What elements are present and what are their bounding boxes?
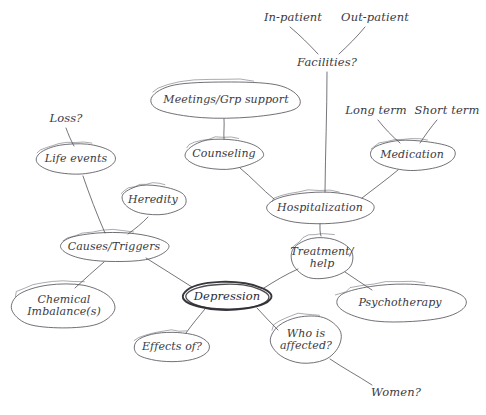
node-outline-causes-triggers <box>60 232 168 261</box>
node-outline-tail-hospitalization <box>272 190 339 202</box>
node-shape-life-events[interactable] <box>36 142 115 174</box>
node-outline-tail-chemical <box>15 281 84 297</box>
node-shape-psychotherapy[interactable] <box>335 281 466 322</box>
node-shape-layer <box>0 0 486 415</box>
node-outline-treatment-help <box>291 238 353 279</box>
node-outline-heredity <box>122 185 186 215</box>
node-outline-medication <box>370 140 455 170</box>
node-shape-medication[interactable] <box>370 139 455 171</box>
node-outline-tail-causes-triggers <box>63 229 134 241</box>
node-outline-effects-of <box>134 332 209 361</box>
node-outline-hospitalization <box>267 192 375 224</box>
node-shape-counseling[interactable] <box>185 137 264 170</box>
node-outline-tail-meetings <box>153 79 254 92</box>
mindmap-canvas: DepressionCauses/TriggersLife eventsHere… <box>0 0 486 415</box>
node-outline-tail-heredity <box>121 183 165 194</box>
node-outline-tail-treatment-help <box>291 234 334 249</box>
node-outline-inner-depression <box>186 284 269 309</box>
node-outline-tail-counseling <box>187 137 239 148</box>
node-shape-hospitalization[interactable] <box>267 190 375 224</box>
node-outline-counseling <box>185 139 264 169</box>
node-outline-life-events <box>36 144 115 174</box>
node-shape-depression[interactable] <box>183 282 272 310</box>
node-outline-psychotherapy <box>337 284 467 322</box>
node-shape-heredity[interactable] <box>121 183 186 215</box>
node-outline-who-affected <box>270 316 341 363</box>
node-outline-meetings <box>151 82 300 118</box>
node-shape-causes-triggers[interactable] <box>60 229 168 261</box>
node-outline-tail-psychotherapy <box>335 281 425 295</box>
node-outline-tail-effects-of <box>134 330 187 341</box>
node-shape-who-affected[interactable] <box>270 313 341 363</box>
node-shape-effects-of[interactable] <box>134 330 209 362</box>
node-shape-chemical[interactable] <box>11 281 115 328</box>
node-shape-meetings[interactable] <box>151 79 300 118</box>
node-shape-treatment-help[interactable] <box>291 234 353 279</box>
node-outline-chemical <box>11 284 115 328</box>
